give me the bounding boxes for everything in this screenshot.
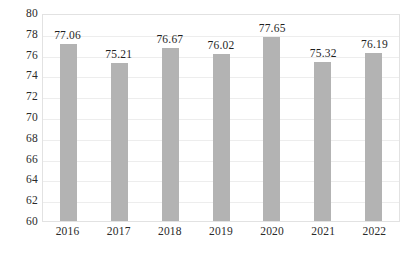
bar-slot: [145, 15, 196, 221]
y-axis-tick-label: 76: [0, 50, 38, 62]
bar[interactable]: [162, 48, 179, 221]
bar[interactable]: [111, 63, 128, 221]
bar[interactable]: [213, 54, 230, 221]
y-axis-tick-label: 60: [0, 216, 38, 228]
y-axis-tick-label: 74: [0, 71, 38, 83]
bar-slot: [94, 15, 145, 221]
y-axis-tick-label: 66: [0, 154, 38, 166]
y-axis-tick-label: 80: [0, 8, 38, 20]
x-axis-tick-label: 2021: [298, 226, 349, 246]
bar-slot: [297, 15, 348, 221]
bar-slot: [348, 15, 399, 221]
x-axis-tick-label: 2017: [93, 226, 144, 246]
x-axis-tick-label: 2016: [42, 226, 93, 246]
y-axis-tick-label: 68: [0, 133, 38, 145]
x-axis: 2016201720182019202020212022: [42, 226, 400, 246]
bar[interactable]: [314, 62, 331, 221]
y-axis-tick-label: 62: [0, 195, 38, 207]
bar-chart: 8078767472706866646260 77.0675.2176.6776…: [0, 0, 418, 264]
y-axis-tick-label: 78: [0, 29, 38, 41]
x-axis-tick-label: 2022: [349, 226, 400, 246]
bar[interactable]: [365, 53, 382, 221]
y-axis-tick-label: 64: [0, 175, 38, 187]
bar-slot: [246, 15, 297, 221]
plot-area: [42, 14, 400, 222]
x-axis-tick-label: 2018: [144, 226, 195, 246]
bar[interactable]: [263, 37, 280, 221]
y-axis: 8078767472706866646260: [0, 0, 38, 264]
bars-group: [43, 15, 399, 221]
bar-slot: [196, 15, 247, 221]
x-axis-tick-label: 2020: [247, 226, 298, 246]
bar[interactable]: [60, 44, 77, 221]
x-axis-tick-label: 2019: [195, 226, 246, 246]
y-axis-tick-label: 70: [0, 112, 38, 124]
y-axis-tick-label: 72: [0, 91, 38, 103]
bar-slot: [43, 15, 94, 221]
